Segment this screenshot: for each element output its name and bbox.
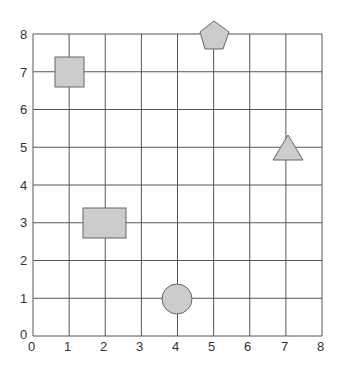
shapes	[55, 21, 303, 314]
coordinate-grid: 8 7 6 5 4 3 2 1 0 0 1 2 3 4 5 6 7 8	[0, 0, 343, 373]
x-tick-7: 7	[281, 339, 288, 354]
x-tick-4: 4	[172, 339, 179, 354]
y-tick-2: 2	[20, 253, 27, 268]
x-tick-1: 1	[64, 339, 71, 354]
square-shape	[55, 57, 84, 87]
y-tick-3: 3	[20, 215, 27, 230]
x-axis-labels: 0 1 2 3 4 5 6 7 8	[28, 339, 324, 354]
y-tick-1: 1	[20, 291, 27, 306]
y-axis-labels: 8 7 6 5 4 3 2 1 0	[20, 27, 27, 342]
x-tick-2: 2	[100, 339, 107, 354]
x-tick-8: 8	[317, 339, 324, 354]
circle-shape	[162, 284, 192, 314]
x-tick-6: 6	[244, 339, 251, 354]
x-tick-3: 3	[136, 339, 143, 354]
x-tick-5: 5	[208, 339, 215, 354]
y-tick-6: 6	[20, 102, 27, 117]
pentagon-shape	[200, 21, 229, 49]
y-tick-0: 0	[20, 327, 27, 342]
y-tick-7: 7	[20, 65, 27, 80]
y-tick-5: 5	[20, 140, 27, 155]
y-tick-4: 4	[20, 178, 27, 193]
x-tick-0: 0	[28, 339, 35, 354]
rectangle-shape	[83, 208, 126, 238]
y-tick-8: 8	[20, 27, 27, 42]
